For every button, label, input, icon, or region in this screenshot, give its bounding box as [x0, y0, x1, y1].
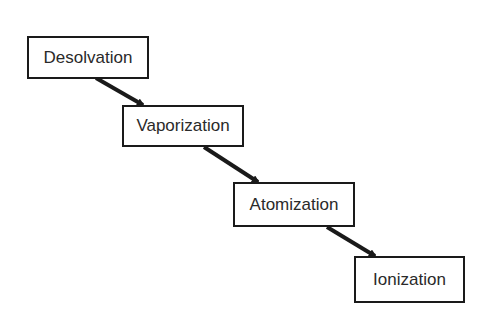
arrow [96, 78, 143, 105]
step-label: Desolvation [44, 48, 133, 68]
step-ionization: Ionization [354, 256, 465, 303]
arrow [204, 147, 258, 182]
step-label: Vaporization [136, 116, 229, 136]
step-vaporization: Vaporization [122, 105, 244, 147]
step-label: Ionization [373, 270, 446, 290]
step-desolvation: Desolvation [27, 36, 149, 79]
arrow [327, 227, 375, 256]
step-label: Atomization [250, 195, 339, 215]
step-atomization: Atomization [233, 182, 355, 227]
